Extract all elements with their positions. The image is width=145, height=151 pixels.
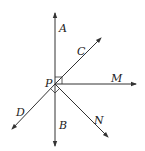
geometry-diagram: A C P M D B N	[0, 0, 145, 151]
label-c: C	[77, 45, 86, 58]
label-a: A	[58, 22, 67, 35]
label-p: P	[44, 77, 53, 90]
diagram-svg: A C P M D B N	[0, 0, 145, 151]
label-b: B	[58, 119, 67, 132]
label-m: M	[110, 72, 123, 85]
label-n: N	[93, 114, 104, 127]
label-d: D	[15, 106, 25, 119]
